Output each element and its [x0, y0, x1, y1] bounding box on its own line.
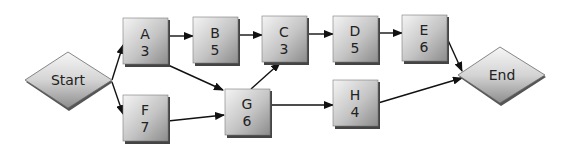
node-e[interactable]: E 6: [402, 15, 449, 64]
edge-f-g: [168, 115, 224, 121]
end-label: End: [489, 67, 516, 83]
edge-e-end: [447, 38, 462, 71]
node-h[interactable]: H 4: [333, 80, 380, 129]
edge-start-f: [112, 82, 123, 114]
node-b[interactable]: B 5: [193, 17, 240, 66]
start-node[interactable]: Start: [25, 52, 113, 111]
start-label: Start: [51, 72, 86, 88]
node-d-label: D: [350, 23, 361, 39]
node-a-label: A: [140, 26, 150, 42]
node-e-duration: 6: [420, 39, 429, 55]
network-diagram: Start End A 3 B 5 C 3 D 5 E 6: [0, 0, 569, 151]
node-g-duration: 6: [243, 113, 252, 129]
node-f-duration: 7: [141, 119, 150, 135]
node-f-label: F: [141, 102, 149, 118]
node-c-label: C: [279, 24, 289, 40]
node-h-label: H: [350, 87, 361, 103]
node-d-duration: 5: [351, 40, 360, 56]
node-f[interactable]: F 7: [123, 95, 170, 144]
edge-a-g: [168, 65, 223, 90]
node-b-label: B: [210, 25, 220, 41]
node-e-label: E: [420, 22, 429, 38]
node-c-duration: 3: [280, 41, 289, 57]
edge-g-c: [251, 63, 280, 89]
node-h-duration: 4: [351, 104, 360, 120]
node-b-duration: 5: [211, 42, 220, 58]
node-g-label: G: [242, 96, 253, 112]
node-c[interactable]: C 3: [262, 16, 309, 65]
node-a-duration: 3: [141, 43, 150, 59]
end-node[interactable]: End: [458, 47, 546, 106]
edge-start-a: [112, 45, 123, 80]
node-g[interactable]: G 6: [225, 89, 272, 138]
edge-h-end: [378, 78, 462, 103]
node-a[interactable]: A 3: [123, 18, 170, 67]
node-d[interactable]: D 5: [333, 16, 380, 65]
